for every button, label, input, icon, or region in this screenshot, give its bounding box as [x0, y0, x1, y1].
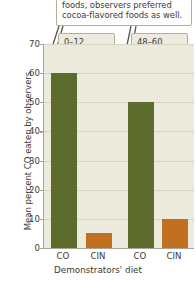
- caption-line-2: cocoa-flavored foods as well.: [62, 10, 182, 20]
- y-tick-mark: [40, 131, 43, 132]
- gridline: [44, 44, 194, 45]
- x-tick-label-co-0: CO: [57, 251, 70, 261]
- y-tick-mark: [40, 248, 43, 249]
- figure-container: foods, observers preferred cocoa-flavore…: [0, 0, 196, 281]
- x-axis-title: Demonstrators' diet: [0, 265, 196, 275]
- bar-co-2: [128, 102, 154, 248]
- x-tick-label-cin-3: CIN: [167, 251, 182, 261]
- plot-area: [43, 44, 194, 248]
- y-tick-mark: [40, 102, 43, 103]
- y-axis-title: Mean percent CO eaten by observers: [23, 61, 33, 241]
- y-tick-mark: [40, 44, 43, 45]
- bar-cin-3: [162, 219, 188, 248]
- x-axis-line: [43, 248, 194, 249]
- caption-text: foods, observers preferred cocoa-flavore…: [62, 0, 190, 21]
- y-tick-mark: [40, 161, 43, 162]
- x-tick-label-co-2: CO: [134, 251, 147, 261]
- y-tick-label-0: 0: [14, 243, 40, 253]
- y-tick-mark: [40, 219, 43, 220]
- y-tick-label-70: 70: [14, 39, 40, 49]
- x-tick-label-cin-1: CIN: [91, 251, 106, 261]
- y-tick-mark: [40, 190, 43, 191]
- bar-co-0: [51, 73, 77, 248]
- caption-line-1: foods, observers preferred: [62, 0, 172, 10]
- bar-cin-1: [86, 233, 112, 248]
- y-tick-mark: [40, 73, 43, 74]
